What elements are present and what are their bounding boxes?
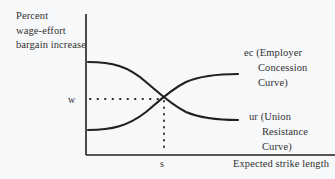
y-axis-label-line-2: wage-effort xyxy=(16,24,86,39)
x-axis-tick-label-s: s xyxy=(160,157,164,170)
ec-label-line-1: ec (Employer xyxy=(244,45,307,60)
y-axis-tick-label-w: w xyxy=(68,93,75,106)
x-axis-label: Expected strike length xyxy=(233,157,329,170)
ec-label-line-2: Concession xyxy=(244,60,307,75)
y-axis-label-line-1: Percent xyxy=(16,9,86,24)
employer-concession-curve xyxy=(88,62,238,120)
ur-label-line-3: Curve) xyxy=(249,139,308,154)
employer-concession-curve-label: ec (Employer Concession Curve) xyxy=(244,45,307,90)
ur-label-line-1: ur (Union xyxy=(249,109,308,124)
union-resistance-curve xyxy=(88,74,238,130)
y-axis-label-line-3: bargain increase xyxy=(16,38,86,53)
ec-label-line-3: Curve) xyxy=(244,75,307,90)
ur-label-line-2: Resistance xyxy=(249,124,308,139)
union-resistance-curve-label: ur (Union Resistance Curve) xyxy=(249,109,308,154)
bargaining-model-figure: Percent wage-effort bargain increase Exp… xyxy=(0,0,335,179)
y-axis-label: Percent wage-effort bargain increase xyxy=(16,9,86,53)
